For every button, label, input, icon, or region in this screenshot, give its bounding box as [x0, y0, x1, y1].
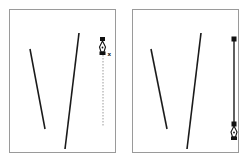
start-anchor-point: [232, 37, 237, 42]
path-line-2: [65, 33, 79, 149]
step-2-canvas: [133, 10, 240, 154]
pen-tool-x-cursor: x: [100, 37, 112, 57]
step-1-panel: x: [9, 9, 116, 153]
step-1-canvas: x: [10, 10, 117, 154]
step-2-panel: [132, 9, 239, 153]
path-line-1: [151, 49, 167, 129]
pen-tool-cursor: [231, 126, 237, 140]
x-modifier-icon: x: [108, 51, 112, 57]
path-line-2: [187, 33, 201, 149]
path-line-1: [30, 49, 45, 129]
